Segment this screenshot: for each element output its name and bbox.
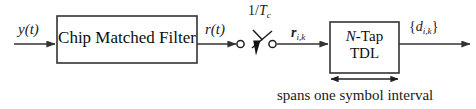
n-tap-tdl-label: N-Tap TDL	[330, 28, 399, 62]
sampling-rate-period-symbol: T	[259, 3, 267, 18]
n-tap-tdl-label-line1: N-Tap	[330, 28, 399, 45]
input-signal-label: y(t)	[18, 22, 39, 37]
input-signal-base: y	[18, 21, 25, 37]
sampled-signal-label: ri,k	[291, 26, 305, 42]
output-signal-base: d	[416, 19, 423, 34]
block-diagram: Chip Matched Filter N-Tap TDL y(t) r(t) …	[0, 0, 476, 109]
sampled-signal-subscript: i,k	[296, 32, 305, 42]
symbol-span-caption: spans one symbol interval	[277, 88, 433, 103]
switch-left-terminal-icon	[237, 40, 244, 47]
input-signal-arg: (t)	[25, 21, 39, 37]
output-signal-close-brace: }	[432, 19, 439, 34]
chip-matched-filter-label: Chip Matched Filter	[57, 28, 197, 47]
filter-output-arg: (t)	[211, 21, 225, 37]
output-signal-subscript: i,k	[423, 26, 432, 36]
filter-output-label: r(t)	[205, 22, 225, 37]
sampling-rate-numerator: 1/	[248, 3, 259, 18]
n-tap-tdl-n-symbol: N	[346, 28, 356, 44]
output-signal-open-brace: {	[409, 19, 416, 34]
sampling-rate-label: 1/Tc	[248, 4, 271, 20]
sampling-arrow-icon	[253, 41, 260, 56]
sampler-clock-stroke-icon	[253, 30, 263, 40]
switch-right-terminal-icon	[269, 40, 276, 47]
n-tap-tdl-tap-text: -Tap	[356, 28, 383, 44]
sampling-rate-subscript: c	[267, 10, 271, 20]
n-tap-tdl-label-line2: TDL	[330, 45, 399, 62]
output-signal-label: {di,k}	[409, 20, 438, 36]
